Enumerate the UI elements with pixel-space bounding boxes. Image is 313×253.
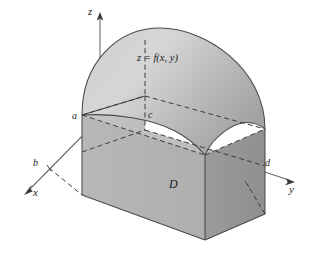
x-axis-label: x [33, 187, 38, 198]
tick-label-d: d [265, 158, 270, 168]
surface-equation-label: z = f(x, y) [137, 53, 178, 64]
figure-canvas: z x y a b c d z = f(x, y) D [0, 0, 313, 253]
y-axis-label: y [289, 184, 294, 195]
region-label-D: D [169, 178, 178, 190]
front-right-face [205, 129, 265, 240]
tick-label-b: b [33, 158, 38, 168]
z-axis-label: z [88, 6, 92, 17]
x-axis-arrowhead [24, 185, 33, 195]
tick-label-a: a [72, 111, 77, 121]
dashed-x-to-base-corner [49, 168, 82, 195]
front-right-face-shape [205, 129, 265, 240]
solid-region-diagram [0, 0, 313, 253]
tick-label-c: c [148, 110, 152, 120]
